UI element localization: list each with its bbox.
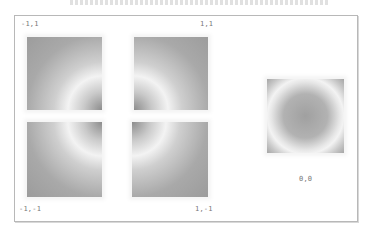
gradient-panel-top-right: [134, 37, 208, 110]
gradient-panel-top-left: [27, 37, 102, 110]
label-bottom-left: -1,-1: [19, 205, 41, 213]
cropped-title-text: [70, 0, 330, 5]
label-bottom-right: 1,-1: [195, 205, 213, 213]
gradient-panel-bottom-right: [132, 122, 208, 197]
gradient-panel-center: [267, 79, 344, 153]
label-top-left: -1,1: [21, 20, 39, 28]
label-center: 0,0: [299, 175, 312, 183]
gradient-panel-bottom-left: [27, 122, 102, 197]
label-top-right: 1,1: [200, 20, 213, 28]
